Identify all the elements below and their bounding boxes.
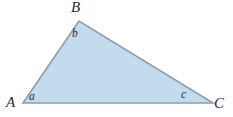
triangle-diagram: A B C a b c [0, 0, 233, 117]
angle-label-b: b [72, 28, 78, 40]
vertex-label-c: C [214, 96, 224, 111]
vertex-label-b: B [71, 0, 80, 15]
angle-label-c: c [181, 89, 186, 101]
angle-label-a: a [29, 91, 35, 103]
vertex-label-a: A [6, 95, 15, 110]
